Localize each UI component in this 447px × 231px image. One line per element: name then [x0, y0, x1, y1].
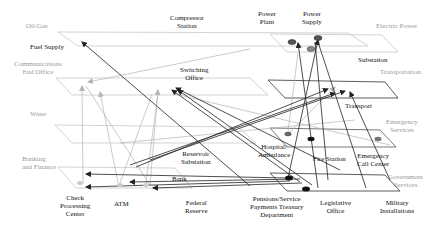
layer-label-oil-gas: Oil/Gas: [26, 22, 48, 30]
node-hospital: [285, 132, 292, 136]
plane-water: [55, 125, 256, 143]
label-legislative-office: Legislative Office: [320, 199, 351, 215]
node-pensions: [285, 176, 293, 181]
layer-label-banking-finance: Banking and Finance: [22, 155, 56, 171]
light-dependency-arrows: [82, 49, 390, 185]
layer-label-water: Water: [30, 110, 47, 118]
node-check-processing: [77, 181, 83, 185]
dark-dependency-arrows: [82, 40, 390, 188]
layer-label-transportation: Transportation: [380, 68, 421, 76]
label-check-processing-center: Check Processing Center: [60, 194, 90, 218]
node-power-plant: [288, 40, 296, 45]
node-substation: [307, 47, 315, 52]
label-fuel-supply: Fuel Supply: [30, 43, 64, 51]
label-federal-reserve: Federal Reserve: [185, 199, 208, 215]
node-bank: [143, 183, 149, 187]
label-hospital-ambulance: Hospital/ Ambulance: [258, 143, 290, 159]
node-legislative: [302, 187, 310, 192]
label-substation: Substation: [358, 56, 388, 64]
label-emergency-call-center: Emergency Call Center: [357, 152, 389, 168]
layer-label-electric-power: Electric Power: [376, 22, 417, 30]
layer-label-communications: Communications End Office: [14, 60, 62, 76]
label-atm: ATM: [114, 200, 129, 208]
label-power-supply: Power Supply: [302, 10, 322, 26]
label-pensions-treasury: Pensions/Service Payments Treasury Depar…: [250, 195, 303, 219]
label-switching-office: Switching Office: [180, 66, 208, 82]
label-power-plant: Power Plant: [258, 10, 276, 26]
label-reservoir-substation: Reservoir Substation: [181, 150, 211, 166]
infrastructure-interdependency-diagram: Oil/Gas Electric Power Communications En…: [0, 0, 447, 231]
node-emergency-call: [375, 137, 382, 141]
node-power-supply: [314, 36, 322, 41]
node-atm: [117, 183, 123, 187]
layer-label-emergency-services: Emergency Services: [386, 118, 418, 134]
label-compressor-station: Compressor Station: [170, 14, 204, 30]
layer-label-government-services: Government Services: [388, 173, 423, 189]
label-military-installations: Military Installations: [380, 199, 414, 215]
plane-communications: [56, 78, 268, 95]
node-fire-station: [308, 137, 315, 141]
label-transport: Transport: [345, 102, 372, 110]
label-fire-station: Fire Station: [313, 155, 346, 163]
label-bank: Bank: [172, 175, 187, 183]
